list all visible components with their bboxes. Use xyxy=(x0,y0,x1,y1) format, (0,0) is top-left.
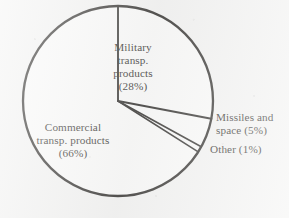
pie-chart-graphic xyxy=(0,0,289,218)
slice-label-military-transp-products: Military transp. products (28%) xyxy=(96,41,170,93)
slice-label-other: Other (1%) xyxy=(210,143,288,156)
slice-label-commercial-transp-products: Commercial transp. products (66%) xyxy=(13,121,133,160)
pie-chart-figure: Military transp. products (28%) Commerci… xyxy=(0,0,289,218)
slice-label-missiles-and-space: Missiles and space (5%) xyxy=(216,111,288,137)
